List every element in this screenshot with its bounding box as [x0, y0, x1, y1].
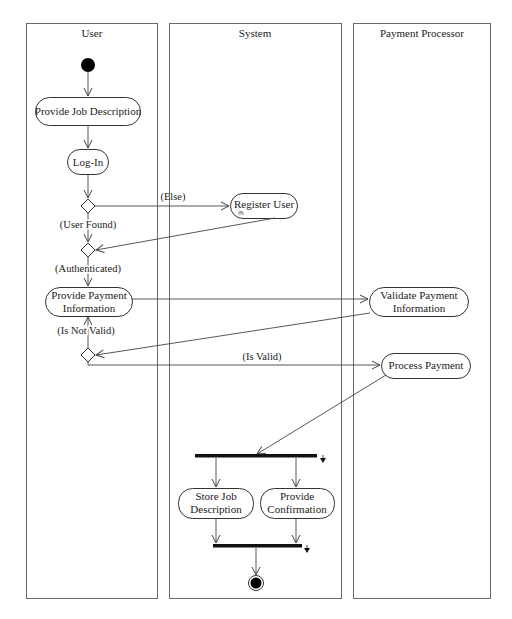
- action-label-line2: Information: [393, 302, 446, 314]
- action-label: Process Payment: [389, 359, 464, 371]
- lane-title-payment-processor: Payment Processor: [380, 27, 464, 39]
- guard-is-valid: (Is Valid): [242, 351, 282, 363]
- action-label: Log-In: [73, 156, 104, 168]
- guard-user-found: (User Found): [60, 219, 117, 231]
- activity-diagram: User System Payment Processor Provide Jo…: [0, 0, 512, 619]
- fork-bar: [195, 454, 317, 458]
- initial-node: [81, 58, 95, 72]
- action-provide-confirmation[interactable]: Provide Confirmation: [261, 489, 335, 519]
- guard-else: (Else): [160, 191, 186, 203]
- action-process-payment[interactable]: Process Payment: [382, 354, 471, 379]
- action-label-line1: Validate Payment: [380, 289, 457, 301]
- action-label-line1: Store Job: [195, 490, 237, 502]
- lane-title-system: System: [239, 27, 272, 39]
- join-bar: [213, 544, 302, 548]
- action-provide-job-description[interactable]: Provide Job Description: [35, 98, 142, 126]
- action-store-job-description[interactable]: Store Job Description: [179, 489, 254, 519]
- action-label-line1: Provide Payment: [51, 289, 126, 301]
- guard-is-not-valid: (Is Not Valid): [57, 325, 115, 337]
- action-register-user[interactable]: Register User: [231, 194, 298, 219]
- action-label-line2: Description: [190, 503, 242, 515]
- action-label-line1: Provide: [280, 490, 314, 502]
- action-label-line2: Information: [63, 302, 116, 314]
- lane-title-user: User: [82, 27, 103, 39]
- action-label: Register User: [234, 198, 295, 210]
- action-label-line2: Confirmation: [267, 503, 327, 515]
- action-log-in[interactable]: Log-In: [68, 150, 109, 175]
- action-validate-payment-information[interactable]: Validate Payment Information: [370, 288, 469, 317]
- guard-authenticated: (Authenticated): [55, 263, 121, 275]
- action-provide-payment-information[interactable]: Provide Payment Information: [46, 288, 133, 317]
- action-label: Provide Job Description: [35, 105, 142, 117]
- activity-final-node: [249, 576, 264, 591]
